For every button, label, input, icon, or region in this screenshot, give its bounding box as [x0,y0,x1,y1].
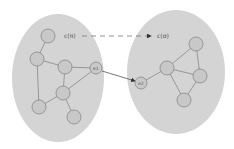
graph-node [177,93,191,107]
left-cluster-label: c(π) [64,32,76,39]
node-e2-label: e2 [138,81,144,86]
graph-node [41,29,55,43]
graph-node [160,61,174,75]
graph-node [189,37,203,51]
graph-node [58,60,72,74]
graph-node [32,100,46,114]
right-cluster-label: c(σ) [157,32,169,39]
graph-node [30,52,44,66]
cluster-left [12,14,104,142]
graph-node [193,69,207,83]
node-e1-label: e1 [93,66,99,71]
graph-node [56,86,70,100]
cluster-right [127,10,225,134]
graph-node [67,110,81,124]
diagram-canvas: c(π) c(σ) e1 e2 [0,0,234,149]
